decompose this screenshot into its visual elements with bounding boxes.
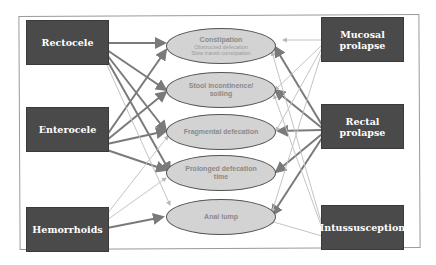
symptom-label: Anal lump [204, 213, 238, 221]
symptom-label: Constipation [200, 36, 243, 44]
node-label: Rectal prolapse [322, 116, 403, 138]
node-label: Mucosal prolapse [322, 29, 403, 51]
node-intussusception: Intussusception [321, 205, 404, 250]
symptom-prolonged-defecation: Prolonged defecation time [166, 155, 276, 191]
symptom-stool-incontinence: Stool incontinence/ soiling [166, 72, 276, 108]
node-rectocele: Rectocele [26, 20, 109, 65]
symptom-label-line2: time [214, 173, 228, 181]
symptom-label: Prolonged defecation [185, 165, 257, 173]
symptom-sub-label: Slow transit constipation [191, 50, 250, 56]
node-label: Enterocele [39, 124, 96, 135]
symptom-label-line2: soiling [210, 90, 233, 98]
symptom-label: Fragmental defecation [184, 128, 259, 136]
node-enterocele: Enterocele [26, 107, 109, 152]
node-label: Intussusception [320, 222, 405, 233]
symptom-constipation: Constipation Obstructed defecation Slow … [166, 28, 276, 64]
node-label: Rectocele [42, 37, 94, 48]
node-hemorrhoids: Hemorrhoids [26, 207, 109, 252]
node-label: Hemorrhoids [32, 224, 102, 235]
symptom-anal-lump: Anal lump [166, 199, 276, 235]
node-rectal-prolapse: Rectal prolapse [321, 104, 404, 149]
node-mucosal-prolapse: Mucosal prolapse [321, 17, 404, 62]
symptom-label: Stool incontinence/ [189, 82, 254, 90]
symptom-fragmental-defecation: Fragmental defecation [166, 114, 276, 150]
